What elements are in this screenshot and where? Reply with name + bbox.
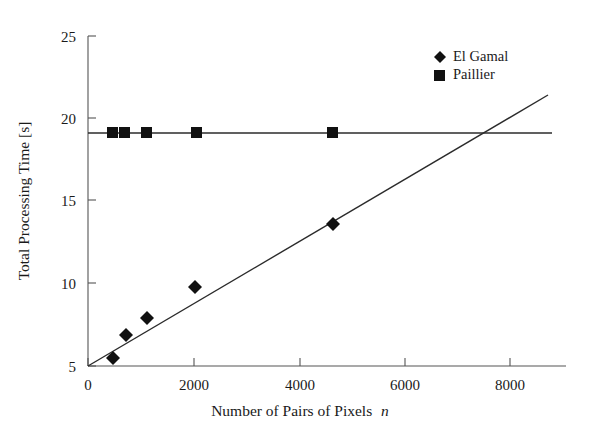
x-tick-label-0: 0 [84, 377, 92, 393]
paillier-point [107, 127, 118, 138]
el-gamal-point [119, 328, 133, 342]
paillier-point [141, 127, 152, 138]
el-gamal-trendline [88, 95, 548, 366]
y-axis-ticks [88, 36, 96, 366]
x-axis-ticks [88, 358, 510, 366]
y-tick-label-5: 5 [69, 359, 77, 375]
y-tick-label-10: 10 [61, 276, 76, 292]
paillier-point [191, 127, 202, 138]
x-axis-title-text: Number of Pairs of Pixels [211, 402, 372, 419]
x-axis-title-variable: n [381, 402, 389, 419]
paillier-point [327, 127, 338, 138]
y-tick-label-20: 20 [61, 111, 76, 127]
x-axis-title: Number of Pairs of Pixels n [211, 402, 389, 419]
legend-label-el-gamal: El Gamal [453, 48, 508, 64]
y-axis-title: Total Processing Time [s] [15, 122, 32, 281]
x-tick-label-8000: 8000 [495, 377, 525, 393]
y-tick-label-25: 25 [61, 29, 76, 45]
series-el-gamal [88, 95, 548, 366]
paillier-point [119, 127, 130, 138]
x-axis-tick-labels: 0 2000 4000 6000 8000 [84, 377, 525, 393]
axes [88, 36, 566, 366]
legend-marker-square [434, 70, 445, 81]
chart-legend: El Gamal Paillier [434, 48, 508, 82]
legend-marker-diamond [434, 51, 446, 63]
el-gamal-point [106, 351, 120, 365]
x-tick-label-2000: 2000 [179, 377, 209, 393]
el-gamal-point [188, 280, 202, 294]
y-tick-label-15: 15 [61, 193, 76, 209]
series-paillier [88, 127, 552, 138]
scatter-plot: 25 20 15 10 5 0 2000 4000 6000 8000 Numb… [0, 0, 597, 438]
x-tick-label-4000: 4000 [285, 377, 315, 393]
y-axis-tick-labels: 25 20 15 10 5 [61, 29, 76, 375]
x-tick-label-6000: 6000 [390, 377, 420, 393]
el-gamal-point [140, 311, 154, 325]
legend-label-paillier: Paillier [453, 66, 495, 82]
chart-figure: 25 20 15 10 5 0 2000 4000 6000 8000 Numb… [0, 0, 597, 438]
